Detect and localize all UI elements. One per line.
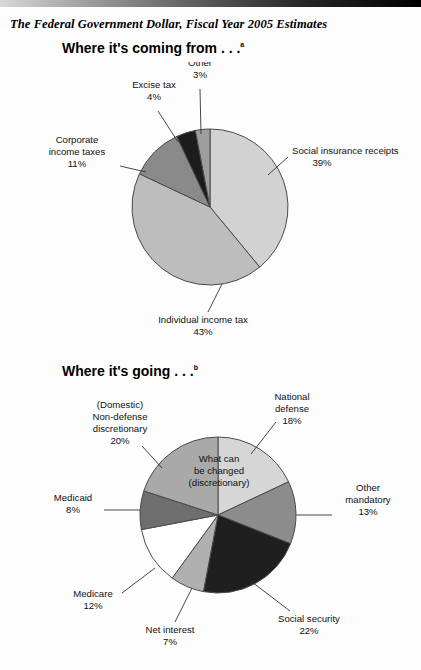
pie-label-other-receipts-name: Other [188, 62, 213, 68]
pie-label-other-mandatory-line1: Other [356, 482, 381, 493]
pie-label-medicare-name: Medicare [73, 588, 112, 599]
section-heading-coming-from: Where it's coming from . . .a [62, 40, 244, 56]
footnote-marker-b: b [194, 364, 198, 371]
leader-line-nondefense-discretionary [142, 446, 162, 468]
pie-chart-outlays: National defense 18% Other mandatory 13%… [0, 390, 421, 670]
pie-label-other-mandatory-value: 13% [358, 506, 378, 517]
pie-label-net-interest-value: 7% [163, 636, 177, 647]
leader-line-national-defense [251, 422, 276, 454]
pie-label-social-security-value: 22% [299, 625, 319, 636]
pie-label-national-defense-line2: defense [275, 403, 309, 414]
pie-label-individual-income-tax-name: Individual income tax [158, 314, 248, 325]
pie-label-other-receipts-value: 3% [193, 69, 207, 80]
chart-coming-from: Social insurance receipts 39% Individual… [0, 62, 421, 342]
section-heading-going-to-text: Where it's going . . . [62, 363, 194, 379]
pie-inner-annotation-line2: be changed [194, 465, 244, 476]
chart-going-to: National defense 18% Other mandatory 13%… [0, 390, 421, 670]
pie-inner-annotation-line1: What can [199, 453, 240, 464]
pie-chart-receipts: Social insurance receipts 39% Individual… [0, 62, 421, 342]
section-heading-going-to: Where it's going . . .b [62, 363, 198, 379]
pie-label-medicare-value: 12% [83, 600, 103, 611]
pie-label-corporate-income-taxes-line1: Corporate [56, 134, 99, 145]
pie-label-national-defense-value: 18% [282, 415, 302, 426]
leader-line-medicare [122, 568, 155, 593]
pie-label-national-defense-line1: National [274, 391, 309, 402]
leader-line-individual-income-tax [208, 284, 222, 312]
pie-label-medicaid-value: 8% [66, 504, 80, 515]
pie-label-social-insurance-receipts-value: 39% [312, 157, 332, 168]
pie-label-nondefense-discretionary-line2: Non-defense [93, 411, 148, 422]
section-heading-coming-from-text: Where it's coming from . . . [62, 40, 240, 56]
pie-label-individual-income-tax-value: 43% [193, 326, 213, 337]
leader-line-other-receipts [200, 89, 201, 134]
page-root: The Federal Government Dollar, Fiscal Ye… [0, 0, 421, 670]
pie-label-other-mandatory-line2: mandatory [345, 494, 391, 505]
pie-label-excise-tax-value: 4% [147, 91, 161, 102]
leader-line-net-interest [175, 588, 192, 622]
pie-label-corporate-income-taxes-value: 11% [68, 158, 87, 169]
document-title: The Federal Government Dollar, Fiscal Ye… [10, 17, 327, 32]
pie-label-excise-tax-name: Excise tax [132, 79, 176, 90]
footnote-marker-a: a [240, 41, 244, 48]
pie-label-social-insurance-receipts-name: Social insurance receipts [292, 145, 399, 156]
pie-inner-annotation-line3: (discretionary) [189, 477, 250, 488]
header-gradient-rule [0, 0, 421, 7]
pie-label-medicaid-name: Medicaid [54, 492, 92, 503]
pie-label-social-security-name: Social security [278, 613, 340, 624]
leader-line-excise-tax [158, 111, 178, 142]
pie-label-corporate-income-taxes-line2: income taxes [49, 146, 106, 157]
pie-label-nondefense-discretionary-line3: discretionary [93, 423, 148, 434]
pie-label-nondefense-discretionary-line1: (Domestic) [97, 399, 143, 410]
pie-label-net-interest-name: Net interest [145, 624, 194, 635]
pie-label-nondefense-discretionary-value: 20% [110, 435, 130, 446]
leader-line-social-security [252, 582, 290, 611]
